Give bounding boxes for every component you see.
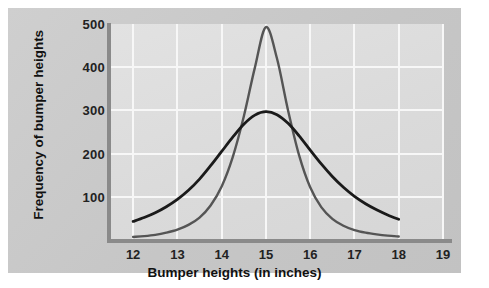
x-tick-label: 13 [162, 248, 192, 261]
x-axis-label: Bumper heights (in inches) [8, 266, 461, 280]
x-axis-spine [107, 239, 452, 243]
plot-area [111, 24, 443, 240]
series-wide-line [133, 112, 399, 222]
chart-panel: 100200300400500 1213141516171819 Bumper … [8, 8, 461, 273]
y-axis-label: Frequency of bumper heights [32, 15, 46, 235]
y-tick-label: 300 [65, 104, 105, 117]
y-axis-tick-labels: 100200300400500 [60, 8, 105, 273]
y-tick-label: 500 [65, 18, 105, 31]
y-tick-label: 100 [65, 191, 105, 204]
x-tick-label: 19 [428, 248, 458, 261]
data-curves [111, 24, 443, 240]
y-axis-spine [107, 23, 111, 243]
series-narrow-line [133, 27, 399, 237]
x-tick-label: 17 [339, 248, 369, 261]
y-tick-label: 400 [65, 61, 105, 74]
y-tick-label: 200 [65, 148, 105, 161]
x-tick-label: 18 [384, 248, 414, 261]
x-tick-label: 12 [118, 248, 148, 261]
x-tick-label: 14 [207, 248, 237, 261]
chart-figure: 100200300400500 1213141516171819 Bumper … [0, 0, 489, 288]
x-tick-label: 16 [295, 248, 325, 261]
x-axis-tick-labels: 1213141516171819 [8, 248, 461, 266]
x-tick-label: 15 [251, 248, 281, 261]
